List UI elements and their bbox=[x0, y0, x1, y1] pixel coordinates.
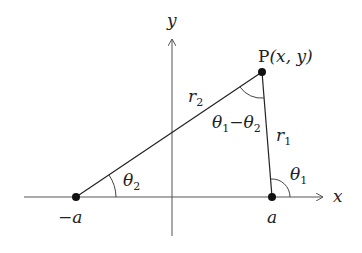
geometry-diagram: x y −a a P(x, y) r2 r1 θ2 θ1 θ1−θ2 bbox=[0, 0, 362, 253]
label-r1: r1 bbox=[276, 125, 291, 148]
label-r2: r2 bbox=[188, 86, 203, 109]
label-neg-a: −a bbox=[58, 207, 82, 227]
point-a bbox=[268, 193, 276, 201]
point-P bbox=[258, 68, 266, 76]
y-axis-label: y bbox=[166, 10, 177, 30]
segment-r2 bbox=[76, 72, 262, 197]
label-a: a bbox=[267, 207, 277, 227]
label-P: P(x, y) bbox=[258, 46, 313, 66]
label-theta1: θ1 bbox=[290, 164, 307, 187]
angle-arc-theta-diff bbox=[240, 87, 264, 98]
angle-arc-theta2 bbox=[109, 175, 116, 197]
label-theta2: θ2 bbox=[123, 170, 140, 193]
x-axis-label: x bbox=[333, 186, 343, 206]
point-neg-a bbox=[72, 193, 80, 201]
segment-r1 bbox=[262, 72, 272, 197]
label-theta-diff: θ1−θ2 bbox=[212, 112, 261, 135]
